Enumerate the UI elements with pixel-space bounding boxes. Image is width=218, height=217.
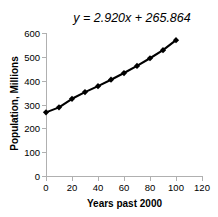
data-point-marker xyxy=(43,109,49,115)
data-series-plot xyxy=(0,0,218,217)
series-line xyxy=(46,40,176,112)
x-axis-title: Years past 2000 xyxy=(46,198,203,209)
chart-container: y = 2.920x + 265.864 0100200300400500600… xyxy=(0,0,218,217)
